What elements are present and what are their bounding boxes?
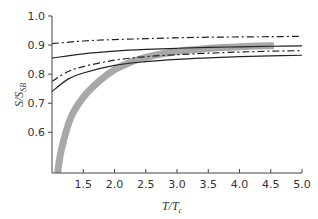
- y-axis-label: S/SSB: [12, 83, 28, 107]
- x-tick-label: 2.5: [137, 178, 155, 191]
- y-tick-label: 0.9: [28, 39, 46, 52]
- x-tick-label: 3.0: [168, 178, 186, 191]
- x-tick-label: 3.5: [200, 178, 218, 191]
- x-tick-label: 4.5: [262, 178, 280, 191]
- chart: 1.52.02.53.03.54.04.55.0 0.60.70.80.91.0…: [0, 0, 318, 219]
- x-axis-label: T/Tc: [162, 199, 183, 215]
- y-tick-label: 1.0: [28, 10, 46, 23]
- x-tick-label: 1.5: [75, 178, 93, 191]
- plot-series: [52, 36, 302, 173]
- y-tick-label: 0.8: [28, 68, 46, 81]
- x-tick-label: 4.0: [231, 178, 249, 191]
- x-tick-label: 2.0: [106, 178, 124, 191]
- y-tick-label: 0.6: [28, 126, 46, 139]
- y-ticks: 0.60.70.80.91.0: [28, 10, 53, 139]
- y-tick-label: 0.7: [28, 97, 46, 110]
- x-tick-label: 5.0: [293, 178, 311, 191]
- x-ticks: 1.52.02.53.03.54.04.55.0: [75, 169, 311, 191]
- series-lower-dash-dot: [52, 51, 302, 82]
